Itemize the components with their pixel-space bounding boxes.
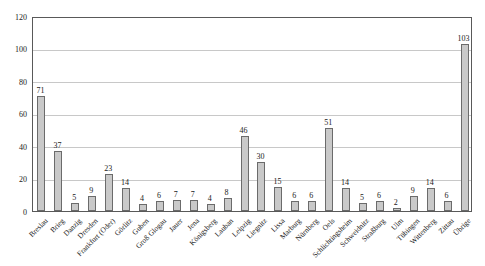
bar [444, 201, 452, 211]
y-axis-tick-label: 80 [0, 78, 27, 87]
bar-value-label: 2 [381, 198, 411, 207]
gridline [33, 82, 471, 83]
bar-value-label: 23 [93, 164, 123, 173]
gridline [33, 50, 471, 51]
y-axis-tick-label: 0 [0, 208, 27, 217]
y-axis-tick-label: 100 [0, 45, 27, 54]
bar-value-label: 46 [229, 126, 259, 135]
y-axis-tick-label: 40 [0, 143, 27, 152]
bar-value-label: 103 [449, 34, 479, 43]
gridline [33, 180, 471, 181]
bar [156, 201, 164, 211]
bar-value-label: 6 [296, 191, 326, 200]
bar-value-label: 30 [245, 152, 275, 161]
bar-value-label: 9 [76, 186, 106, 195]
bar-value-label: 9 [398, 186, 428, 195]
bar [139, 204, 147, 211]
bar [257, 162, 265, 211]
bar [224, 198, 232, 211]
x-axis-label: Görlitz [113, 217, 134, 238]
bar-value-label: 37 [42, 141, 72, 150]
x-axis-label: Jauer [168, 217, 185, 234]
bar-value-label: 6 [432, 191, 462, 200]
bar [71, 203, 79, 211]
bar-value-label: 51 [313, 118, 343, 127]
gridline [33, 147, 471, 148]
bar-value-label: 71 [25, 86, 55, 95]
bar-value-label: 14 [330, 178, 360, 187]
bar [173, 200, 181, 211]
y-axis-tick-label: 120 [0, 13, 27, 22]
bar-chart: 02040608010012071Breslau37Brieg5Danzig9D… [0, 0, 485, 266]
bar [291, 201, 299, 211]
bar [410, 196, 418, 211]
x-axis-label: Übrige [452, 217, 472, 237]
bar [461, 44, 469, 211]
bar [207, 204, 215, 211]
y-axis-tick-label: 20 [0, 175, 27, 184]
bar-value-label: 15 [262, 177, 292, 186]
plot-area [32, 17, 472, 212]
bar [308, 201, 316, 211]
gridline [33, 115, 471, 116]
y-axis-tick-label: 60 [0, 110, 27, 119]
bar [241, 136, 249, 211]
bar-value-label: 14 [415, 178, 445, 187]
bar [359, 203, 367, 211]
bar [393, 208, 401, 211]
bar [54, 151, 62, 211]
bar [37, 96, 45, 211]
bar-value-label: 14 [110, 178, 140, 187]
x-axis-label: Breslau [27, 217, 49, 239]
bar-value-label: 8 [212, 188, 242, 197]
